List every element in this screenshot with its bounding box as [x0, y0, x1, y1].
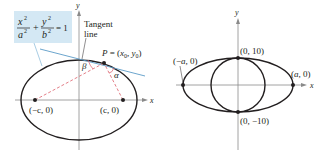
- eq-exp: 2: [48, 28, 51, 34]
- y-axis-arrow-icon: [77, 10, 81, 16]
- eq-plus: +: [33, 22, 39, 33]
- point-p: [102, 61, 106, 65]
- eq-y: y: [41, 16, 47, 27]
- point-bottom: [236, 110, 240, 114]
- vertex-left: [181, 83, 185, 87]
- eq-exp: 2: [24, 28, 27, 34]
- eq-exp: 2: [48, 15, 51, 21]
- tangent-label: Tangent: [84, 19, 113, 29]
- left-vertex-label: (−a, 0): [173, 56, 198, 66]
- left-figure: x 2 a 2 + y 2 b 2 = 1 y x Tangent line: [14, 1, 154, 150]
- point-top: [236, 56, 240, 60]
- tangent-pointer: [82, 38, 86, 59]
- eq-a: a: [18, 29, 23, 40]
- y-axis-label: y: [75, 1, 80, 10]
- eq-b: b: [42, 29, 47, 40]
- focus-left: [33, 98, 37, 102]
- tangent-label-2: line: [84, 29, 98, 39]
- y-axis-right-label: y: [234, 8, 239, 17]
- bottom-point-label: (0, −10): [240, 116, 269, 126]
- y-axis-right-arrow-icon: [236, 18, 240, 24]
- focus-right-label: (c, 0): [100, 105, 119, 115]
- diagram-canvas: x 2 a 2 + y 2 b 2 = 1 y x Tangent line: [0, 0, 330, 165]
- right-figure: y x (0, 10) (0, −10) (−a, 0) (a, 0): [173, 8, 314, 150]
- x-axis-arrow-icon: [142, 98, 148, 102]
- left-vertex-pointer: [180, 66, 183, 83]
- beta-label: β: [81, 61, 87, 71]
- eq-x: x: [17, 16, 23, 27]
- x-axis-right-arrow-icon: [301, 83, 307, 87]
- focal-line-left: [35, 63, 104, 100]
- focus-right: [121, 98, 125, 102]
- right-vertex-label: (a, 0): [291, 69, 311, 79]
- vertex-right: [291, 83, 295, 87]
- alpha-label: α: [114, 70, 119, 80]
- focus-left-label: (−c, 0): [29, 105, 53, 115]
- eq-equals: = 1: [56, 23, 68, 33]
- x-axis-right-label: x: [309, 81, 314, 90]
- x-axis-label: x: [149, 96, 154, 105]
- equation-pointer: [34, 43, 42, 66]
- point-p-label: P = (x0, y0): [101, 48, 142, 59]
- top-point-label: (0, 10): [240, 46, 264, 56]
- eq-exp: 2: [24, 15, 27, 21]
